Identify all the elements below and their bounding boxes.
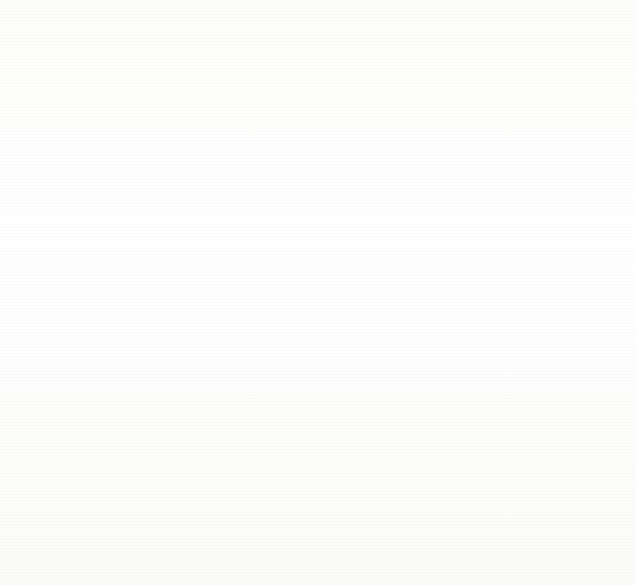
bar-group-2: 3.9	[205, 232, 267, 548]
bar-value-1: 3.6	[115, 300, 201, 315]
bar-group-0: 1.8	[49, 232, 111, 548]
bar-2[interactable]	[205, 361, 267, 548]
bar-0[interactable]	[49, 285, 111, 548]
legend-item-2[interactable]: Knowing about intercultural communicatio…	[66, 70, 291, 88]
bar-5[interactable]	[439, 478, 501, 548]
bar-3[interactable]	[283, 398, 345, 548]
legend-swatch-5	[66, 177, 75, 186]
legend-item-1[interactable]: Knowing about the culture of the non-nat…	[66, 38, 515, 56]
legend-swatch-1	[66, 43, 75, 52]
bar-group-4: 4.6	[361, 232, 423, 548]
legend-item-0[interactable]: Knowing about the way other non-native E…	[66, 6, 425, 24]
bar-chart: 1.8 3.6 3.9 4.0 4.6 4.8 5.2 Questionnair…	[0, 232, 636, 585]
legend-item-4[interactable]: Using correct native-like grammar	[66, 134, 245, 152]
bar-value-5: 4.8	[427, 458, 513, 473]
bar-value-2: 3.9	[193, 341, 279, 356]
bar-4[interactable]	[361, 437, 423, 548]
legend-label-6: Knowing about the culture of native Engl…	[80, 207, 387, 220]
bar-1[interactable]	[127, 320, 189, 548]
legend-swatch-2	[66, 75, 75, 84]
legend-item-5[interactable]: Knowing about the relationship between l…	[66, 172, 382, 190]
bar-value-4: 4.6	[349, 417, 435, 432]
bar-6[interactable]	[517, 513, 579, 548]
legend-item-3[interactable]: Having a native-like pronunciation.	[66, 102, 248, 120]
bar-group-5: 4.8	[439, 232, 501, 548]
legend-swatch-0	[66, 11, 75, 20]
bar-value-0: 1.8	[37, 265, 123, 280]
legend-label-0: Knowing about the way other non-native E…	[80, 9, 425, 22]
bar-value-3: 4.0	[271, 378, 357, 393]
x-axis-line	[24, 547, 616, 548]
legend-label-3: Having a native-like pronunciation.	[80, 105, 248, 118]
legend-label-4: Using correct native-like grammar	[80, 137, 245, 150]
legend-swatch-4	[66, 139, 75, 148]
legend-swatch-6	[66, 209, 75, 218]
bar-group-3: 4.0	[283, 232, 345, 548]
legend-item-6[interactable]: Knowing about the culture of native Engl…	[66, 204, 387, 222]
legend-label-5: Knowing about the relationship between l…	[80, 175, 382, 188]
plot-area: 1.8 3.6 3.9 4.0 4.6 4.8 5.2	[0, 232, 636, 548]
bar-value-6: 5.2	[505, 493, 591, 508]
legend-swatch-3	[66, 107, 75, 116]
x-axis-title: Questionnaire 1	[0, 556, 636, 571]
legend-label-2: Knowing about intercultural communicatio…	[80, 73, 291, 86]
bar-group-1: 3.6	[127, 232, 189, 548]
chart-legend: Knowing about the way other non-native E…	[0, 0, 636, 232]
legend-label-1: Knowing about the culture of the non-nat…	[80, 41, 515, 54]
bar-group-6: 5.2	[517, 232, 579, 548]
